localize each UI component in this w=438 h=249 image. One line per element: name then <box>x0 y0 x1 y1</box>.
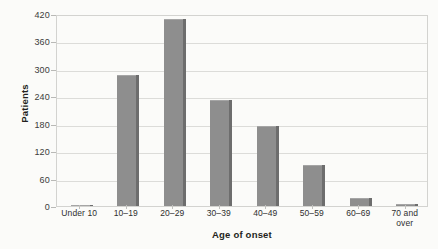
y-axis-tick-label: 420 <box>4 10 50 20</box>
bar-side-shadow <box>415 204 418 206</box>
plot-area <box>56 15 428 207</box>
y-axis-tick-mark <box>51 207 56 208</box>
bar-top-edge <box>117 75 136 76</box>
x-axis-title: Age of onset <box>56 229 428 240</box>
y-axis-tick-mark <box>51 70 56 71</box>
bar-side-shadow <box>90 205 93 207</box>
bar-body <box>71 205 90 207</box>
x-axis-tick-label: 70 andover <box>382 209 429 228</box>
x-axis-tick-label: 10–19 <box>103 209 150 219</box>
y-axis-tick-mark <box>51 97 56 98</box>
bar-side-shadow <box>136 75 139 206</box>
y-axis-tick-mark <box>51 180 56 181</box>
y-axis-tick-label: 0 <box>4 202 50 212</box>
bar-top-edge <box>396 204 415 205</box>
bar-top-edge <box>257 126 276 127</box>
bar-body <box>303 165 322 206</box>
bar-side-shadow <box>229 100 232 206</box>
bar-body <box>210 100 229 206</box>
bar-body <box>164 19 183 206</box>
bar-side-shadow <box>322 165 325 206</box>
y-axis-tick-mark <box>51 15 56 16</box>
x-axis-tick-label: Under 10 <box>56 209 103 219</box>
bar[interactable] <box>257 126 276 206</box>
bar[interactable] <box>350 198 369 206</box>
bar-top-edge <box>303 165 322 166</box>
bar-body <box>396 204 415 206</box>
y-axis-tick-label: 240 <box>4 92 50 102</box>
y-axis-tick-label: 360 <box>4 37 50 47</box>
y-axis-tick-mark <box>51 42 56 43</box>
bar-body <box>257 126 276 206</box>
y-axis-tick-labels: 060120180240300360420 <box>0 0 50 249</box>
bar-top-edge <box>164 19 183 20</box>
y-axis-tick-label: 120 <box>4 147 50 157</box>
y-axis-tick-label: 300 <box>4 65 50 75</box>
x-axis-tick-label: 40–49 <box>242 209 289 219</box>
bar-side-shadow <box>183 19 186 206</box>
y-axis-tick-label: 180 <box>4 120 50 130</box>
bar-chart: Patients 060120180240300360420 Under 101… <box>0 0 438 249</box>
bar-side-shadow <box>276 126 279 206</box>
bar-top-edge <box>71 205 90 206</box>
bar-top-edge <box>210 100 229 101</box>
x-axis-tick-label: 30–39 <box>196 209 243 219</box>
bar-side-shadow <box>369 198 372 206</box>
bar[interactable] <box>164 19 183 206</box>
bar[interactable] <box>210 100 229 206</box>
bar[interactable] <box>396 204 415 206</box>
x-axis-tick-label: 20–29 <box>149 209 196 219</box>
bar-top-edge <box>350 198 369 199</box>
y-axis-tick-mark <box>51 152 56 153</box>
y-axis-tick-label: 60 <box>4 175 50 185</box>
bar[interactable] <box>303 165 322 206</box>
bar[interactable] <box>71 205 90 207</box>
bar[interactable] <box>117 75 136 206</box>
bars-layer <box>57 16 427 206</box>
x-axis-tick-label: 60–69 <box>335 209 382 219</box>
bar-body <box>117 75 136 206</box>
x-axis-tick-label: 50–59 <box>289 209 336 219</box>
bar-body <box>350 198 369 206</box>
y-axis-tick-mark <box>51 125 56 126</box>
